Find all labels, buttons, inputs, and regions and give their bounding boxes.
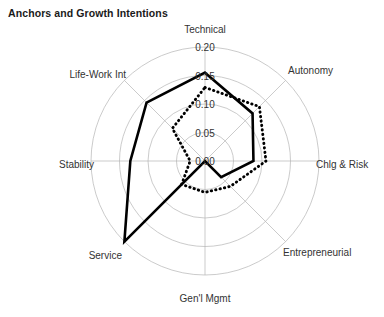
- tick-label-0.20: 0.20: [195, 42, 215, 53]
- axis-label-entrepreneurial: Entrepreneurial: [283, 247, 351, 258]
- axis-label-technical: Technical: [184, 24, 226, 35]
- axis-label-autonomy: Autonomy: [288, 65, 333, 76]
- tick-label-0.05: 0.05: [195, 128, 215, 139]
- tick-label-0.00: 0.00: [195, 156, 215, 167]
- radar-svg: 0.20 0.15 0.10 0.05 0.00 Technical Auton…: [0, 0, 384, 317]
- axis-label-service: Service: [89, 250, 123, 261]
- radar-chart: 0.20 0.15 0.10 0.05 0.00 Technical Auton…: [0, 0, 384, 317]
- axis-label-genl-mgmt: Gen'l Mgmt: [180, 293, 231, 304]
- axis-label-chlg-risk: Chlg & Risk: [316, 159, 369, 170]
- axis-label-life-work: Life-Work Int: [70, 69, 127, 80]
- axis-label-stability: Stability: [59, 159, 94, 170]
- tick-label-0.15: 0.15: [195, 71, 215, 82]
- tick-label-0.10: 0.10: [195, 99, 215, 110]
